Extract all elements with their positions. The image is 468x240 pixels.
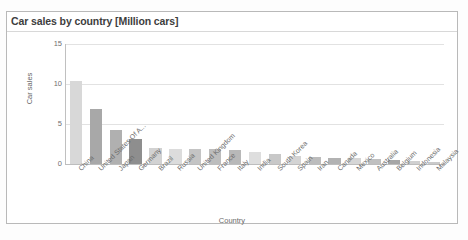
- y-axis-ticks: 051015: [40, 44, 62, 165]
- x-axis-ticks: ChinaUnited States Of A...JapanGermanyBr…: [66, 165, 444, 213]
- screenshot-root: Car sales by country [Million cars] Car …: [0, 0, 468, 240]
- y-tick-label: 10: [42, 80, 62, 88]
- y-axis-title: Car sales: [25, 59, 34, 119]
- x-axis-title: Country: [7, 216, 457, 225]
- bar[interactable]: [70, 81, 82, 164]
- y-tick-label: 15: [42, 40, 62, 48]
- chart-title: Car sales by country [Million cars]: [11, 15, 178, 27]
- chart-card: Car sales by country [Million cars] Car …: [6, 11, 458, 224]
- y-tick-label: 5: [42, 120, 62, 128]
- y-tick-label: 0: [42, 160, 62, 168]
- plot-wrapper: Car sales 051015 ChinaUnited States Of A…: [7, 32, 457, 224]
